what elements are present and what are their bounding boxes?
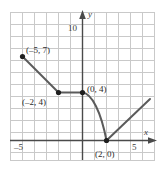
y-tick-label-10: 10 xyxy=(68,24,77,33)
x-tick-label-5: 5 xyxy=(132,143,137,152)
x-axis-label: x xyxy=(144,128,148,137)
y-axis-label: y xyxy=(88,10,92,19)
point-2-0 xyxy=(104,138,109,143)
point-neg2-4 xyxy=(56,90,61,95)
point-label-2-0: (2, 0) xyxy=(95,150,115,159)
x-tick-label-neg5: –5 xyxy=(14,143,23,152)
decreasing-segment xyxy=(23,57,59,93)
point-label-neg2-4: (–2, 4) xyxy=(22,98,46,107)
point-label-neg5-7: (–5, 7) xyxy=(26,46,50,55)
point-0-4 xyxy=(80,90,85,95)
graph-figure: y x 10 –5 5 (–5, 7) (–2, 4) (0, 4) (2, 0… xyxy=(0,0,164,171)
point-neg5-7 xyxy=(20,54,25,59)
point-label-0-4: (0, 4) xyxy=(87,85,107,94)
coordinate-plane xyxy=(0,0,164,171)
